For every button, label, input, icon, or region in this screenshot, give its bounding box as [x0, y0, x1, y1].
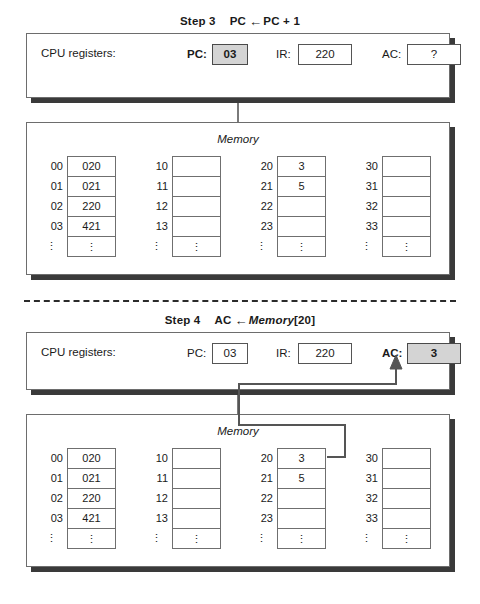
data-flow-path — [239, 368, 396, 457]
arrowhead-icon — [390, 355, 402, 369]
diagram-canvas: Step 3PC←PC + 1 CPU registers: PC: 03 IR… — [0, 0, 480, 604]
step4-data-flow-arrow — [0, 0, 480, 604]
